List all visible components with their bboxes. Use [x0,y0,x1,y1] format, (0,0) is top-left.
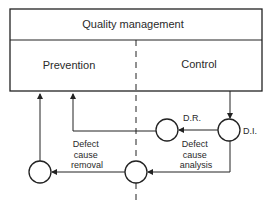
quality-management-diagram: Quality management Prevention Control D.… [0,0,272,205]
defect-cause-removal-label: Defect cause removal [71,139,103,170]
defect-cause-analysis-label: Defect cause analysis [180,139,213,170]
analysis-node [125,161,147,183]
di-node [218,119,240,141]
diagram-title: Quality management [82,18,184,30]
prevention-label: Prevention [43,59,96,71]
removal-node [29,161,51,183]
dr-node [156,119,178,141]
dr-to-prevention-arrow [73,94,156,131]
di-label: D.I. [243,126,257,136]
control-label: Control [181,58,216,70]
dr-label: D.R. [183,113,201,123]
